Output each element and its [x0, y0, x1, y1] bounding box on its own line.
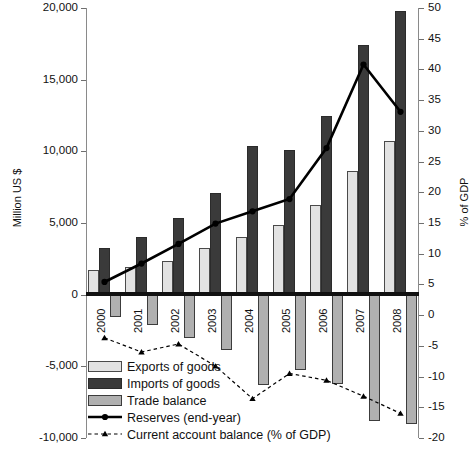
zero-baseline — [86, 292, 419, 296]
marker-reserves[interactable] — [249, 208, 255, 214]
marker-reserves[interactable] — [360, 61, 366, 67]
legend-item[interactable]: Reserves (end-year) — [88, 409, 338, 426]
legend-swatch-current-account — [88, 429, 122, 440]
year-label: 2006 — [317, 308, 329, 332]
right-tick-mark — [419, 438, 424, 439]
right-tick-mark — [419, 315, 424, 316]
right-tick-label: 35 — [428, 94, 458, 104]
year-label: 2000 — [95, 308, 107, 332]
right-tick-mark — [419, 192, 424, 193]
chart-figure: Million US $ % of GDP 20,00015,00010,000… — [0, 0, 471, 453]
right-tick-label: 0 — [428, 309, 458, 319]
left-tick-label: 15,000 — [20, 74, 78, 84]
right-tick-label: 10 — [428, 248, 458, 258]
left-tick-mark — [81, 438, 86, 439]
year-label: 2007 — [354, 308, 366, 332]
marker-reserves[interactable] — [397, 109, 403, 115]
legend-label: Trade balance — [127, 394, 206, 408]
marker-current-account[interactable] — [101, 335, 107, 340]
legend-label: Reserves (end-year) — [127, 411, 241, 425]
legend-item[interactable]: Exports of goods — [88, 358, 338, 375]
marker-current-account[interactable] — [175, 341, 181, 346]
right-tick-mark — [419, 162, 424, 163]
left-tick-label: 20,000 — [20, 2, 78, 12]
year-label: 2008 — [391, 308, 403, 332]
left-tick-label: 0 — [20, 289, 78, 299]
right-tick-mark — [419, 100, 424, 101]
marker-reserves[interactable] — [212, 221, 218, 227]
year-label: 2005 — [280, 308, 292, 332]
right-tick-mark — [419, 39, 424, 40]
right-axis-title: % of GDP — [458, 162, 470, 242]
right-tick-mark — [419, 254, 424, 255]
legend-item[interactable]: Trade balance — [88, 392, 338, 409]
right-tick-mark — [419, 223, 424, 224]
marker-current-account[interactable] — [397, 410, 403, 415]
legend-swatch-trade-balance — [88, 395, 122, 406]
right-tick-label: -20 — [428, 432, 458, 442]
right-tick-label: 25 — [428, 156, 458, 166]
year-label: 2004 — [243, 308, 255, 332]
right-tick-label: 40 — [428, 63, 458, 73]
left-tick-label: 10,000 — [20, 145, 78, 155]
legend-label: Exports of goods — [127, 360, 221, 374]
legend-item[interactable]: Current account balance (% of GDP) — [88, 426, 338, 443]
legend-label: Imports of goods — [127, 377, 220, 391]
left-tick-label: 5,000 — [20, 217, 78, 227]
legend-swatch-exports — [88, 361, 122, 372]
right-tick-mark — [419, 69, 424, 70]
marker-reserves[interactable] — [175, 241, 181, 247]
right-tick-label: 50 — [428, 2, 458, 12]
right-tick-label: 30 — [428, 125, 458, 135]
marker-reserves[interactable] — [323, 145, 329, 151]
right-tick-label: 45 — [428, 33, 458, 43]
year-label: 2003 — [206, 308, 218, 332]
chart-legend: Exports of goodsImports of goodsTrade ba… — [88, 358, 338, 443]
right-tick-label: -5 — [428, 340, 458, 350]
marker-reserves[interactable] — [138, 260, 144, 266]
marker-reserves[interactable] — [286, 196, 292, 202]
legend-item[interactable]: Imports of goods — [88, 375, 338, 392]
right-tick-mark — [419, 8, 424, 9]
right-tick-mark — [419, 346, 424, 347]
marker-current-account[interactable] — [360, 393, 366, 398]
legend-swatch-reserves — [88, 412, 122, 423]
right-tick-label: -10 — [428, 371, 458, 381]
right-tick-mark — [419, 131, 424, 132]
right-tick-label: 15 — [428, 217, 458, 227]
right-tick-mark — [419, 377, 424, 378]
left-tick-label: -5,000 — [20, 360, 78, 370]
line-reserves — [105, 65, 401, 283]
right-tick-label: -15 — [428, 401, 458, 411]
year-label: 2002 — [169, 308, 181, 332]
legend-swatch-imports — [88, 378, 122, 389]
marker-reserves[interactable] — [101, 279, 107, 285]
right-tick-label: 20 — [428, 186, 458, 196]
legend-label: Current account balance (% of GDP) — [127, 428, 331, 442]
right-tick-mark — [419, 284, 424, 285]
right-tick-label: 5 — [428, 278, 458, 288]
right-tick-mark — [419, 407, 424, 408]
year-label: 2001 — [132, 308, 144, 332]
left-tick-label: -10,000 — [20, 432, 78, 442]
